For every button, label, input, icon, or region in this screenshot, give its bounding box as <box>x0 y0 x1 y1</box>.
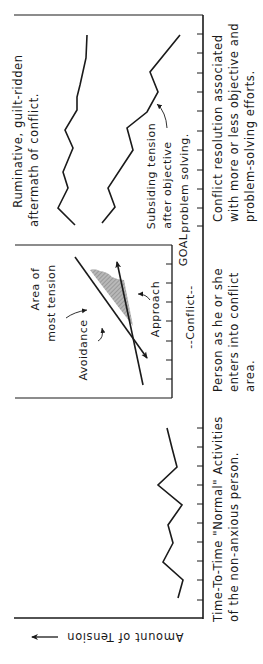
avoidance-label: Avoidance <box>77 319 90 380</box>
conflict-caption-line-1: Person as he or she <box>211 268 225 392</box>
main-axes <box>14 15 203 619</box>
tension-diagram: Amount of Tension Area of most tension A… <box>0 0 263 664</box>
normal-activity-panel <box>158 428 183 598</box>
normal-caption-line-2: of the non-anxious person. <box>227 452 241 622</box>
tension-area <box>90 269 133 326</box>
y-axis-label: Amount of Tension <box>32 630 183 644</box>
subsiding-label-line-1: Subsiding tension <box>145 123 158 229</box>
conflict-caption-line-2: enters into conflict <box>227 272 241 392</box>
conflict-caption-line-3: area. <box>243 360 257 392</box>
goal-label: GOAL <box>177 233 190 266</box>
approach-line <box>117 262 143 385</box>
normal-tension-curve <box>158 428 183 598</box>
approach-label: Approach <box>149 281 162 337</box>
y-axis-label-text: Amount of Tension <box>67 630 184 644</box>
area-label-line-1: Area of <box>29 267 42 311</box>
captions: Time-To-Time "Normal" Activities of the … <box>211 23 257 623</box>
ruminative-label-line-2: aftermath of conflict. <box>27 93 41 227</box>
conflict-inset: Area of most tension Avoidance Approach … <box>15 233 197 398</box>
subsiding-label-line-2: after objective <box>161 141 174 228</box>
subsiding-label-line-3: problem solving. <box>178 133 191 233</box>
ruminative-curve <box>58 35 87 225</box>
resolution-caption-line-3: problem-solving efforts. <box>243 70 257 222</box>
conflict-label: --Conflict-- <box>184 285 197 349</box>
resolution-caption-line-2: with more or less objective and <box>227 23 241 222</box>
axis-ticks <box>197 34 203 600</box>
resolution-panel: Ruminative, guilt-ridden aftermath of co… <box>11 35 192 233</box>
area-label-line-2: most tension <box>45 264 58 342</box>
ruminative-label-line-1: Ruminative, guilt-ridden <box>11 54 25 207</box>
normal-caption-line-1: Time-To-Time "Normal" Activities <box>211 416 225 623</box>
resolution-caption-line-1: Conflict resolution associated <box>211 34 225 222</box>
